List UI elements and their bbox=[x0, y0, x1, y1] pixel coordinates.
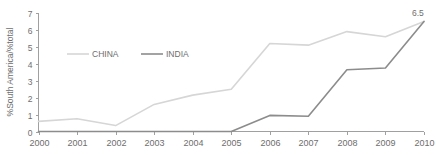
y-axis-tick-labels: 01234567 bbox=[28, 9, 33, 138]
chart-canvas: 01234567 2000200120022003200420052006200… bbox=[0, 0, 436, 155]
y-tick-label: 0 bbox=[28, 128, 33, 138]
x-tick-label: 2005 bbox=[221, 138, 241, 148]
x-tick-label: 2001 bbox=[67, 138, 87, 148]
series-line-china bbox=[39, 21, 425, 125]
line-chart: 01234567 2000200120022003200420052006200… bbox=[0, 0, 436, 155]
y-tick-label: 5 bbox=[28, 43, 33, 53]
y-axis-title: %South America/%total bbox=[5, 27, 15, 116]
x-axis-tick-labels: 2000200120022003200420052006200720082009… bbox=[29, 138, 434, 148]
y-tick-label: 7 bbox=[28, 9, 33, 19]
x-tick-label: 2004 bbox=[183, 138, 203, 148]
x-tick-label: 2007 bbox=[298, 138, 318, 148]
series-line-india bbox=[39, 21, 425, 131]
y-tick-label: 1 bbox=[28, 111, 33, 121]
x-tick-label: 2002 bbox=[106, 138, 126, 148]
y-tick-label: 6 bbox=[28, 26, 33, 36]
axes-group bbox=[36, 13, 425, 135]
endpoint-value-label: 6.5 bbox=[412, 8, 424, 18]
x-tick-label: 2008 bbox=[337, 138, 357, 148]
y-tick-label: 3 bbox=[28, 77, 33, 87]
y-tick-label: 4 bbox=[28, 60, 33, 70]
x-tick-label: 2010 bbox=[414, 138, 434, 148]
data-series-group bbox=[39, 21, 425, 131]
x-tick-label: 2003 bbox=[144, 138, 164, 148]
x-tick-label: 2009 bbox=[375, 138, 395, 148]
chart-annotations: 6.5 bbox=[412, 8, 424, 18]
legend-label-india: INDIA bbox=[166, 49, 189, 59]
x-tick-label: 2006 bbox=[260, 138, 280, 148]
chart-legend: CHINAINDIA bbox=[67, 49, 189, 59]
y-tick-label: 2 bbox=[28, 94, 33, 104]
x-tick-label: 2000 bbox=[29, 138, 49, 148]
legend-label-china: CHINA bbox=[92, 49, 119, 59]
